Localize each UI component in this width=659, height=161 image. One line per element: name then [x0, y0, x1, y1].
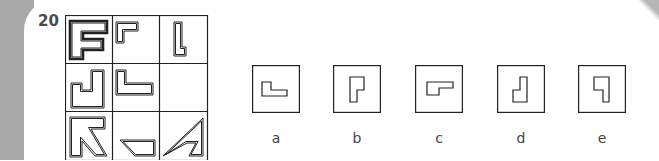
- option-a-box[interactable]: [252, 65, 300, 113]
- option-d-label: d: [497, 130, 545, 146]
- option-e-box[interactable]: [578, 65, 626, 113]
- puzzle-matrix: [65, 15, 209, 160]
- option-d-box[interactable]: [497, 65, 545, 113]
- question-number: 20: [38, 12, 59, 30]
- triangle-notch-shape-icon: [163, 118, 203, 156]
- matrix-border: [66, 16, 208, 161]
- option-a-label: a: [252, 130, 300, 146]
- j-shape-icon: [513, 77, 527, 102]
- option-c-label: c: [415, 130, 463, 146]
- gamma-horizontal-icon: [427, 82, 453, 95]
- option-e-label: e: [578, 130, 626, 146]
- inverted-gamma-icon: [594, 77, 609, 102]
- f-shape-icon: [70, 21, 107, 59]
- option-b-label: b: [333, 130, 381, 146]
- l-shape-icon: [116, 70, 153, 95]
- trapezoid-shape-icon: [120, 140, 155, 156]
- option-b-box[interactable]: [333, 65, 381, 113]
- j-cup-shape-icon: [71, 70, 104, 108]
- page-corner: [639, 0, 659, 20]
- gamma-shape-icon: [116, 22, 138, 43]
- small-l-shape-icon: [262, 82, 287, 96]
- arrow-shape-icon: [70, 117, 107, 157]
- option-c-box[interactable]: [415, 65, 463, 113]
- p-shape-icon: [350, 77, 364, 102]
